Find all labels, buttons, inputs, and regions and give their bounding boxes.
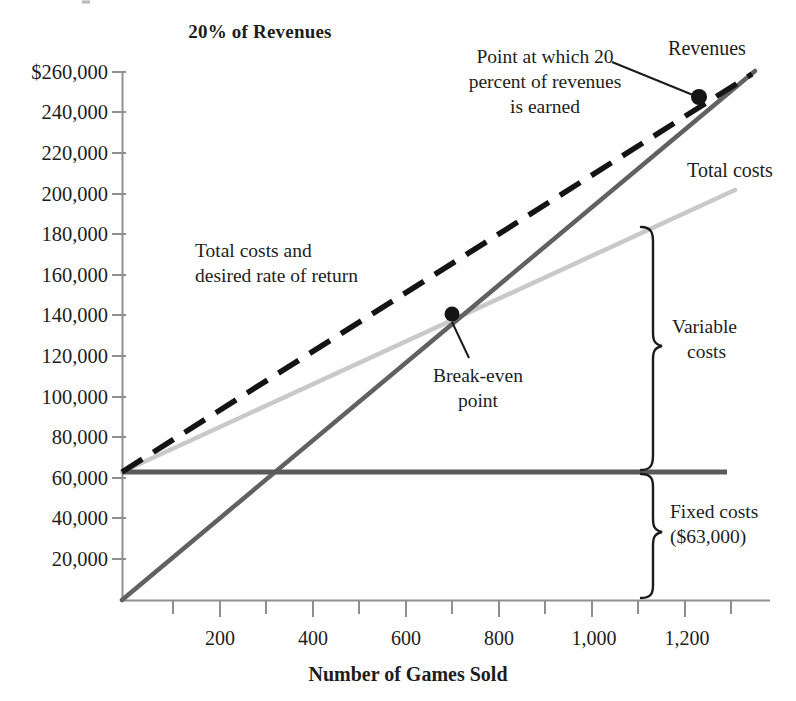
variable-costs-line-2: costs [687,341,726,362]
x-tick-label-800: 800 [484,627,514,649]
x-axis-title: Number of Games Sold [308,663,507,685]
annotation-twenty-percent: Point at which 20 percent of revenues is… [469,46,622,117]
y-tick-label-200000: 200,000 [41,183,108,205]
fixed-costs-brace [641,474,662,598]
variable-costs-line-1: Variable [672,316,737,337]
y-tick-label-140000: 140,000 [41,304,108,326]
y-tick-label-260000: $260,000 [31,61,108,83]
variable-costs-brace [641,227,662,470]
y-tick-label-160000: 160,000 [41,264,108,286]
y-ticks-group [112,72,126,559]
annotation-total-costs-and-return: Total costs and desired rate of return [195,240,358,286]
total-costs-return-line-2: desired rate of return [195,265,358,286]
markers-group [445,89,708,322]
x-tick-label-1200: 1,200 [665,627,710,649]
twenty-percent-line-2: percent of revenues [469,71,622,92]
twenty-percent-line-3: is earned [510,96,580,117]
break-even-chart: $260,000 240,000 220,000 200,000 180,000… [0,0,796,701]
break-even-line-1: Break-even [433,365,523,386]
y-tick-labels-group: $260,000 240,000 220,000 200,000 180,000… [31,61,108,570]
y-tick-label-220000: 220,000 [41,142,108,164]
x-tick-labels-group: 200 400 600 800 1,000 1,200 [205,627,710,649]
series-label-revenues: Revenues [668,37,746,59]
y-tick-label-60000: 60,000 [52,467,108,489]
break-even-line-2: point [458,390,499,411]
braces-group [641,227,662,598]
fixed-costs-line-2: ($63,000) [670,526,746,548]
leader-line-break-even [452,322,469,358]
marker-twenty-percent-point [691,89,707,105]
y-tick-label-100000: 100,000 [41,386,108,408]
series-label-total-costs: Total costs [687,159,773,181]
chart-svg: $260,000 240,000 220,000 200,000 180,000… [0,0,796,701]
series-group [122,71,755,600]
brace-label-variable-costs: Variable costs [672,316,737,362]
y-tick-label-80000: 80,000 [52,426,108,448]
brace-label-fixed-costs: Fixed costs ($63,000) [670,501,758,548]
leader-line-twenty-percent [612,62,693,95]
y-tick-label-180000: 180,000 [41,223,108,245]
x-tick-label-600: 600 [391,627,421,649]
series-revenues-line [122,71,755,600]
x-ticks-group [173,600,731,617]
chart-title: 20% of Revenues [188,21,331,42]
fixed-costs-line-1: Fixed costs [670,501,758,522]
marker-break-even-point [445,307,460,322]
x-tick-label-400: 400 [298,627,328,649]
x-tick-label-200: 200 [205,627,235,649]
twenty-percent-line-1: Point at which 20 [476,46,613,67]
x-tick-label-1000: 1,000 [572,627,617,649]
annotation-break-even: Break-even point [433,365,523,411]
y-tick-label-120000: 120,000 [41,345,108,367]
y-tick-label-20000: 20,000 [52,548,108,570]
y-tick-label-40000: 40,000 [52,507,108,529]
y-tick-label-240000: 240,000 [41,101,108,123]
total-costs-return-line-1: Total costs and [195,240,312,261]
series-total-costs-line [122,190,735,472]
